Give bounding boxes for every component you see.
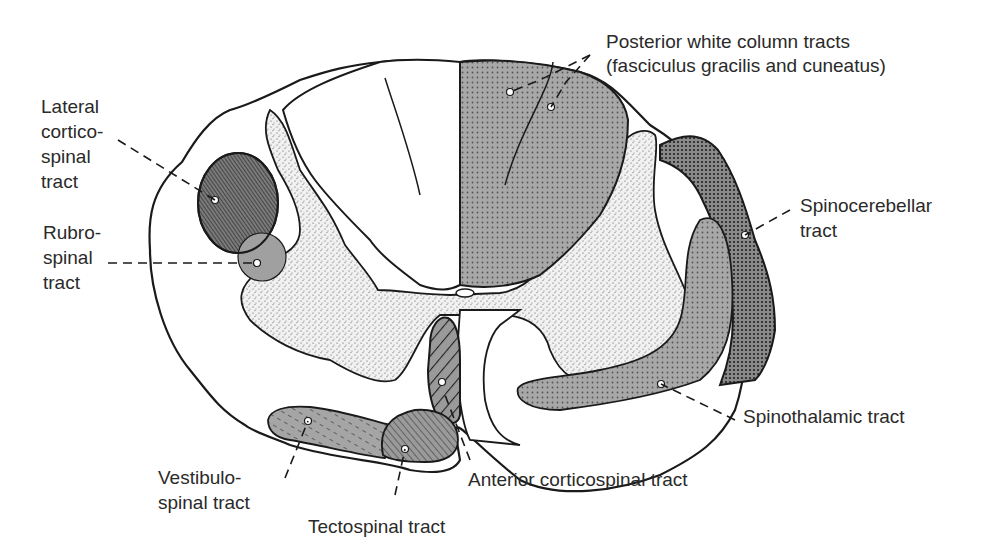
rubrospinal-tract [238, 233, 286, 281]
label-lateral-corticospinal: Lateral cortico- spinal tract [41, 94, 103, 194]
label-spinothalamic: Spinothalamic tract [743, 405, 905, 429]
label-anterior-corticospinal: Anterior corticospinal tract [468, 468, 688, 492]
anterior-corticospinal-tract [428, 317, 460, 423]
label-rubrospinal: Rubro- spinal tract [43, 220, 101, 295]
label-posterior-white-column: Posterior white column tracts (fasciculu… [606, 30, 886, 78]
central-canal [456, 289, 474, 297]
label-vestibulospinal: Vestibulo- spinal tract [158, 465, 250, 515]
label-tectospinal: Tectospinal tract [308, 515, 445, 539]
label-spinocerebellar: Spinocerebellar tract [800, 193, 932, 243]
